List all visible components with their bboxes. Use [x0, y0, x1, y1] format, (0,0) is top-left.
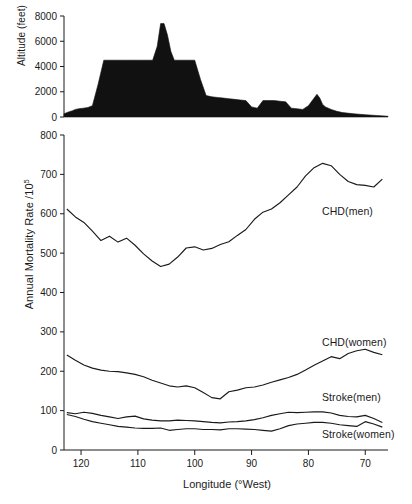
altitude-area-fill: [64, 24, 388, 117]
mortality-tick-label: 400: [40, 287, 57, 298]
altitude-axis-label: Altitude (feet): [16, 0, 27, 91]
altitude-tick-label: 2000: [35, 86, 58, 97]
mortality-tick-label: 600: [40, 208, 57, 219]
mortality-tick-label: 100: [40, 405, 57, 416]
mortality-axes: 0100200300400500600700800120110100908070: [40, 130, 388, 470]
mortality-tick-label: 200: [40, 366, 57, 377]
longitude-tick-label: 100: [186, 458, 203, 469]
series-label-stroke-men: Stroke(men): [322, 391, 381, 403]
longitude-tick-label: 120: [73, 458, 90, 469]
altitude-tick-label: 8000: [35, 11, 58, 22]
series-label-chd-men: CHD(men): [322, 205, 373, 217]
altitude-panel: 02000400060008000: [35, 11, 388, 123]
mortality-tick-label: 800: [40, 130, 57, 141]
series-label-stroke-women: Stroke(women): [322, 428, 395, 440]
longitude-tick-label: 80: [303, 458, 315, 469]
longitude-tick-label: 70: [360, 458, 372, 469]
mortality-axis-label: Annual Mortality Rate /105: [23, 129, 36, 359]
series-label-chd-women: CHD(women): [322, 336, 387, 348]
mortality-axis-label-text: Annual Mortality Rate /10: [23, 183, 35, 309]
series-line-stroke-men: [67, 412, 382, 423]
mortality-tick-label: 500: [40, 248, 57, 259]
longitude-axis-label: Longitude (°West): [64, 478, 390, 490]
altitude-tick-label: 4000: [35, 61, 58, 72]
figure-container: Altitude (feet) Annual Mortality Rate /1…: [0, 0, 412, 504]
mortality-axis-label-exponent: 5: [23, 179, 30, 183]
altitude-y-axis: 02000400060008000: [35, 11, 64, 123]
mortality-tick-label: 300: [40, 326, 57, 337]
mortality-tick-label: 0: [51, 445, 57, 456]
mortality-panel: 0100200300400500600700800120110100908070: [40, 130, 388, 470]
altitude-tick-label: 6000: [35, 36, 58, 47]
longitude-tick-label: 90: [246, 458, 258, 469]
mortality-tick-label: 700: [40, 169, 57, 180]
longitude-tick-label: 110: [130, 458, 146, 469]
altitude-tick-label: 0: [51, 112, 57, 123]
